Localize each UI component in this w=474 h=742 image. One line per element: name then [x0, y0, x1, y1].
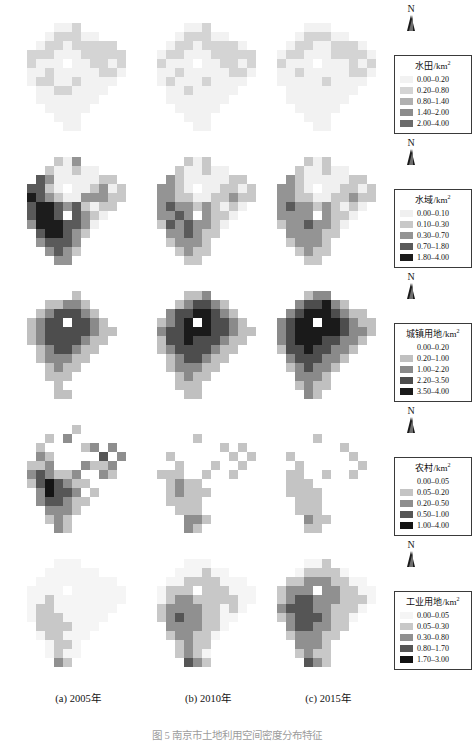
raster-cell — [238, 309, 247, 318]
raster-cell — [376, 113, 385, 122]
raster-cell — [36, 104, 45, 113]
raster-cell — [175, 372, 184, 381]
legend-row[interactable]: 0.80–1.70 — [400, 643, 466, 654]
legend-row[interactable]: 2.00–4.00 — [400, 118, 466, 129]
legend-row[interactable]: 0.30–0.80 — [400, 632, 466, 643]
raster-cell — [268, 300, 277, 309]
legend-row[interactable]: 0.05–0.20 — [400, 487, 466, 498]
raster-cell — [322, 390, 331, 399]
legend-row[interactable]: 0.20–0.50 — [400, 498, 466, 509]
map-panel-industrial-land-2[interactable] — [268, 550, 388, 684]
raster-cell — [117, 318, 126, 327]
raster-cell — [63, 300, 72, 309]
raster-cell — [99, 443, 108, 452]
legend-row[interactable]: 2.20–3.50 — [400, 375, 466, 386]
raster-cell — [108, 77, 117, 86]
raster-cell — [268, 193, 277, 202]
legend-row[interactable]: 1.80–4.00 — [400, 252, 466, 263]
raster-cell — [211, 559, 220, 568]
raster-cell — [81, 166, 90, 175]
column-captions: (a) 2005年(b) 2010年(c) 2015年 — [0, 690, 474, 712]
raster-cell — [211, 416, 220, 425]
raster-cell — [27, 50, 36, 59]
map-panel-paddy-field-2[interactable] — [268, 14, 388, 148]
raster-cell — [238, 533, 247, 542]
raster-cell — [286, 667, 295, 676]
raster-cell — [220, 32, 229, 41]
raster-cell — [108, 247, 117, 256]
raster-cell — [202, 363, 211, 372]
raster-cell — [211, 148, 220, 157]
legend-row[interactable]: 0.00–0.20 — [400, 74, 466, 85]
legend-row[interactable]: 0.20–0.80 — [400, 85, 466, 96]
map-panel-paddy-field-1[interactable] — [148, 14, 268, 148]
raster-cell — [358, 32, 367, 41]
north-arrow: N — [398, 540, 424, 580]
legend-row[interactable]: 0.00–0.20 — [400, 342, 466, 353]
legend-row[interactable]: 1.00–4.00 — [400, 520, 466, 531]
raster-cell — [304, 586, 313, 595]
legend-row[interactable]: 3.50–4.00 — [400, 386, 466, 397]
raster-cell — [108, 157, 117, 166]
raster-cell — [148, 622, 157, 631]
raster-cell — [45, 381, 54, 390]
raster-cell — [376, 434, 385, 443]
raster-cell — [54, 622, 63, 631]
raster-cell — [304, 113, 313, 122]
legend-row[interactable]: 1.00–2.20 — [400, 364, 466, 375]
raster-cell — [81, 229, 90, 238]
legend-row[interactable]: 1.70–3.00 — [400, 654, 466, 665]
north-arrow-shadow — [409, 551, 413, 567]
legend-row[interactable]: 0.00–0.10 — [400, 208, 466, 219]
raster-cell — [211, 309, 220, 318]
raster-cell — [220, 416, 229, 425]
raster-cell — [117, 68, 126, 77]
map-panel-urban-land-1[interactable] — [148, 282, 268, 416]
raster-cell — [340, 175, 349, 184]
map-panel-rural-settlement-0[interactable] — [18, 416, 138, 550]
raster-cell — [81, 506, 90, 515]
legend-row[interactable]: 0.00–0.05 — [400, 610, 466, 621]
map-panel-water-body-0[interactable] — [18, 148, 138, 282]
legend-row[interactable]: 0.30–0.70 — [400, 230, 466, 241]
raster-cell — [54, 131, 63, 140]
raster-cell — [268, 425, 277, 434]
map-panel-paddy-field-0[interactable] — [18, 14, 138, 148]
raster-cell — [286, 354, 295, 363]
raster-cell — [295, 425, 304, 434]
map-panel-rural-settlement-2[interactable] — [268, 416, 388, 550]
legend-row[interactable]: 1.40–2.00 — [400, 107, 466, 118]
raster-cell — [108, 41, 117, 50]
map-panel-water-body-2[interactable] — [268, 148, 388, 282]
raster-cell — [238, 568, 247, 577]
raster-cell — [247, 416, 256, 425]
map-panel-industrial-land-1[interactable] — [148, 550, 268, 684]
raster-cell — [229, 336, 238, 345]
raster-cell — [256, 229, 265, 238]
map-panel-industrial-land-0[interactable] — [18, 550, 138, 684]
raster-cell — [211, 470, 220, 479]
raster-cell — [117, 479, 126, 488]
raster-cell — [81, 452, 90, 461]
legend-row[interactable]: 0.00–0.05 — [400, 476, 466, 487]
legend-row[interactable]: 0.50–1.00 — [400, 509, 466, 520]
legend-row[interactable]: 0.80–1.40 — [400, 96, 466, 107]
raster-cell — [193, 381, 202, 390]
map-panel-rural-settlement-1[interactable] — [148, 416, 268, 550]
map-panel-urban-land-2[interactable] — [268, 282, 388, 416]
legend-row[interactable]: 0.10–0.30 — [400, 219, 466, 230]
legend-row[interactable]: 0.05–0.30 — [400, 621, 466, 632]
raster-cell — [193, 122, 202, 131]
legend-row[interactable]: 0.20–1.00 — [400, 353, 466, 364]
raster-cell — [295, 131, 304, 140]
raster-cell — [340, 488, 349, 497]
legend-row[interactable]: 0.70–1.80 — [400, 241, 466, 252]
raster-cell — [27, 32, 36, 41]
raster-cell — [99, 220, 108, 229]
raster-cell — [313, 131, 322, 140]
map-panel-urban-land-0[interactable] — [18, 282, 138, 416]
map-panel-water-body-1[interactable] — [148, 148, 268, 282]
raster-cell — [45, 568, 54, 577]
raster-cell — [157, 309, 166, 318]
raster-cell — [358, 77, 367, 86]
